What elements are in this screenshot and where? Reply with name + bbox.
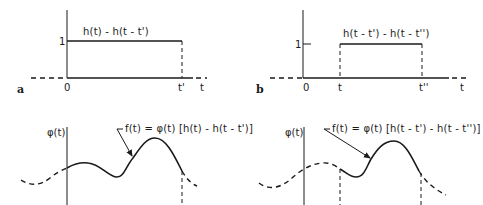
panel-b-level-label: 1 [295, 39, 301, 50]
panel-a-tick-zero: 0 [64, 82, 70, 93]
panel-d-annotation: f(t) = φ(t) [h(t - t') - h(t - t'')] [332, 123, 481, 134]
panel-c-curve-dashed-left [21, 168, 67, 184]
panel-b-letter: b [256, 83, 264, 96]
panel-d-y-axis-label: φ(t) [285, 127, 303, 138]
panel-a-curve-label: h(t) - h(t - t') [83, 26, 149, 37]
panel-c-function-plot: φ(t) f(t) = φ(t) [h(t) - h(t - t')] [21, 123, 253, 205]
panel-b-pulse-plot: h(t - t') - h(t - t'') 1 0 t t'' t b [256, 10, 470, 96]
panel-b-x-axis-label: t [460, 82, 464, 93]
panel-a-letter: a [17, 83, 24, 96]
panel-d-curve-dashed-right [419, 171, 446, 195]
panel-d-function-plot: φ(t) f(t) = φ(t) [h(t - t') - h(t - t'')… [259, 123, 481, 205]
panel-d-curve-dashed-left [259, 163, 340, 188]
panel-b-curve-label: h(t - t') - h(t - t'') [343, 28, 430, 39]
panel-a-level-label: 1 [59, 36, 65, 47]
panel-a-tick-t-prime: t' [178, 82, 185, 93]
unit-step-pulse-figure: h(t) - h(t - t') 1 0 t' t a h(t - t') - … [0, 0, 483, 205]
panel-b-tick-zero: 0 [303, 82, 309, 93]
panel-c-annotation: f(t) = φ(t) [h(t) - h(t - t')] [125, 123, 253, 134]
panel-b-tick-t-prime: t [338, 82, 342, 93]
panel-c-y-axis-label: φ(t) [47, 127, 65, 138]
panel-b-tick-t-double-prime: t'' [419, 82, 428, 93]
panel-c-curve-solid [67, 138, 182, 177]
panel-a-x-axis-label: t [200, 82, 204, 93]
panel-c-curve-dashed-right [182, 171, 197, 186]
panel-a-pulse-plot: h(t) - h(t - t') 1 0 t' t a [17, 10, 207, 96]
